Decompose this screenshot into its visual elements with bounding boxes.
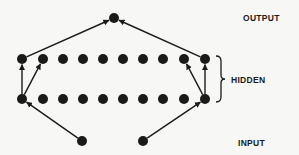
hidden-top-node [17, 54, 27, 64]
hidden-bottom-node [78, 94, 88, 104]
connection-arrows [22, 20, 205, 138]
hidden-top-node [138, 54, 148, 64]
hidden-bottom-node [200, 94, 210, 104]
hidden-bottom-node [58, 94, 68, 104]
connection-arrow [27, 20, 109, 57]
output-label: OUTPUT [243, 13, 280, 23]
hidden-bottom-node [38, 94, 48, 104]
connection-arrow [24, 64, 40, 95]
connection-arrow [27, 102, 78, 138]
output-node [109, 13, 119, 23]
input-label: INPUT [238, 138, 265, 148]
hidden-top-node [98, 54, 108, 64]
connection-arrow [187, 64, 203, 95]
hidden-bottom-node [158, 94, 168, 104]
hidden-bottom-node [118, 94, 128, 104]
hidden-brace [216, 56, 225, 102]
input-node [77, 136, 87, 146]
hidden-top-node [118, 54, 128, 64]
hidden-top-node [38, 54, 48, 64]
hidden-bottom-node [98, 94, 108, 104]
connection-arrow [147, 102, 200, 138]
hidden-bottom-node [179, 94, 189, 104]
input-node [138, 136, 148, 146]
hidden-label: HIDDEN [231, 75, 265, 85]
hidden-top-node [158, 54, 168, 64]
hidden-bottom-node [138, 94, 148, 104]
hidden-top-node [78, 54, 88, 64]
hidden-top-node [200, 54, 210, 64]
network-nodes [17, 13, 210, 146]
connection-arrow [119, 20, 200, 57]
hidden-top-node [58, 54, 68, 64]
hidden-bottom-node [17, 94, 27, 104]
hidden-top-node [179, 54, 189, 64]
